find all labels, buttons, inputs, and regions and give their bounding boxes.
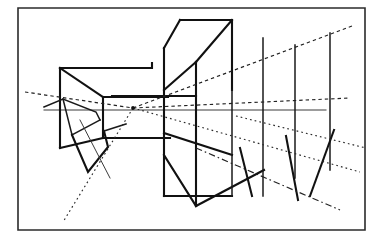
drawing-canvas bbox=[0, 0, 378, 239]
perspective-drawing-figure: Two-point perspective construction sketc… bbox=[0, 0, 378, 239]
canvas-background bbox=[0, 0, 378, 239]
vanishing-point-marker bbox=[131, 106, 135, 110]
